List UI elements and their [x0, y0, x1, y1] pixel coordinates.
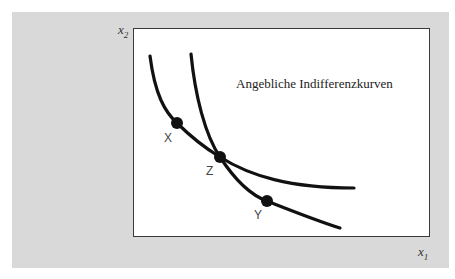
point-z-label: Z — [206, 164, 213, 178]
figure-title: Angebliche Indifferenzkurven — [236, 76, 393, 92]
point-x-label: X — [164, 131, 172, 145]
indifference-curves — [0, 0, 455, 279]
point-y-label: Y — [254, 208, 262, 222]
point-y-marker — [261, 195, 273, 207]
point-x-marker — [171, 117, 183, 129]
point-z-marker — [214, 151, 226, 163]
y-axis-label: x2 — [118, 22, 128, 40]
x-axis-label: x1 — [418, 244, 428, 262]
